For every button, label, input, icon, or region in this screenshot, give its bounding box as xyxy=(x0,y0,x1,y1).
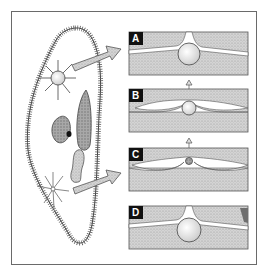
paramecium-cell xyxy=(27,28,121,243)
vacuole-bubble xyxy=(178,43,200,65)
panel-a: A xyxy=(129,32,248,75)
micronucleus xyxy=(67,131,72,137)
panel-label-d: D xyxy=(132,207,139,218)
vacuole-bubble xyxy=(182,101,196,115)
panel-b: B xyxy=(129,89,248,132)
panel-d: D xyxy=(129,206,248,249)
paramecium-diagram: A B C D xyxy=(0,0,265,274)
panel-c: C xyxy=(129,148,248,191)
panel-label-c: C xyxy=(132,149,139,160)
vacuole-bubble xyxy=(186,158,193,165)
panel-label-a: A xyxy=(132,33,139,44)
panel-label-b: B xyxy=(132,90,139,101)
vacuole-bubble xyxy=(177,218,201,242)
